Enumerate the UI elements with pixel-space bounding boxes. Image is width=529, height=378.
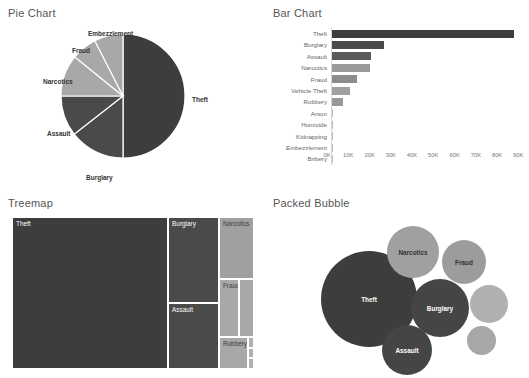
bar-fill[interactable]: [332, 52, 371, 60]
bar-fill[interactable]: [332, 30, 514, 38]
bar-chart-row[interactable]: Fraud: [273, 74, 523, 85]
bar-category-label: Narcotics: [273, 62, 331, 73]
bar-category-label: Robbery: [273, 96, 331, 107]
bar-chart-row[interactable]: Robbery: [273, 96, 523, 107]
bar-fill[interactable]: [332, 109, 333, 117]
pie-slice[interactable]: [123, 34, 185, 158]
pie-chart-canvas: TheftBurglaryAssaultNarcoticsFraudEmbezz…: [0, 0, 265, 189]
pie-slice-label: Theft: [192, 96, 208, 103]
bubble[interactable]: [470, 285, 508, 323]
pie-slice-label: Assault: [47, 130, 70, 137]
treemap-cell[interactable]: Robbery: [219, 337, 248, 369]
bar-axis-tick-label: 10K: [343, 152, 353, 158]
treemap-cell[interactable]: [248, 337, 254, 348]
bar-chart-row[interactable]: Homicide: [273, 119, 523, 130]
bar-axis-tick-label: 60K: [449, 152, 459, 158]
pie-slice-label: Embezzlement: [88, 30, 133, 37]
bar-axis-tick-label: 0K: [323, 152, 330, 158]
bubble-label: Theft: [361, 296, 377, 303]
bubble[interactable]: Narcotics: [387, 226, 439, 278]
treemap-cell-label: Assault: [172, 306, 193, 313]
bar-axis-tick-label: 90K: [513, 152, 523, 158]
bar-track: [331, 39, 523, 50]
pie-chart-svg: [0, 0, 265, 189]
treemap-cell-label: Fraud: [223, 282, 240, 289]
bar-fill[interactable]: [332, 98, 343, 106]
treemap-cell[interactable]: Fraud: [219, 279, 240, 337]
treemap-title: Treemap: [8, 197, 53, 209]
bar-track: [331, 119, 523, 130]
bar-chart-row[interactable]: Burglary: [273, 39, 523, 50]
treemap-cell[interactable]: [248, 348, 254, 357]
bar-track: [331, 28, 523, 39]
bar-category-label: Arson: [273, 108, 331, 119]
bar-axis-tick-label: 70K: [471, 152, 481, 158]
packed-bubble-panel: Packed Bubble TheftBurglaryNarcoticsAssa…: [265, 189, 529, 378]
bar-category-label: Fraud: [273, 74, 331, 85]
bar-track: [331, 108, 523, 119]
bar-fill[interactable]: [332, 87, 350, 95]
bar-axis-tick-label: 20K: [364, 152, 374, 158]
bar-category-label: Bribery: [273, 153, 331, 164]
treemap-cell-label: Theft: [16, 220, 31, 227]
bar-track: [331, 62, 523, 73]
dashboard-grid: Pie Chart TheftBurglaryAssaultNarcoticsF…: [0, 0, 529, 378]
treemap-panel: Treemap TheftBurglaryAssaultNarcoticsFra…: [0, 189, 265, 378]
bubble-label: Assault: [395, 347, 418, 354]
bar-axis-tick-label: 30K: [386, 152, 396, 158]
bar-chart-title: Bar Chart: [273, 7, 322, 19]
treemap-cell[interactable]: [239, 279, 254, 337]
treemap-cell[interactable]: [248, 358, 254, 369]
bar-axis-tick-label: 50K: [428, 152, 438, 158]
bar-fill[interactable]: [332, 121, 333, 129]
bar-category-label: Homicide: [273, 119, 331, 130]
bar-category-label: Assault: [273, 51, 331, 62]
bar-chart-x-axis: 0K10K20K30K40K50K60K70K80K90K: [327, 150, 529, 164]
bar-category-label: Kidnapping: [273, 131, 331, 142]
packed-bubble-canvas: TheftBurglaryNarcoticsAssaultFraud: [265, 207, 529, 375]
pie-slice-label: Burglary: [86, 174, 113, 181]
bubble[interactable]: [467, 326, 496, 355]
bar-category-label: Theft: [273, 28, 331, 39]
bar-category-label: Burglary: [273, 39, 331, 50]
bar-category-label: Embezzlement: [273, 142, 331, 153]
treemap-cell[interactable]: Burglary: [168, 217, 219, 303]
bubble-label: Burglary: [427, 305, 453, 312]
bar-chart-row[interactable]: Arson: [273, 108, 523, 119]
bubble[interactable]: Fraud: [442, 240, 486, 284]
pie-chart-panel: Pie Chart TheftBurglaryAssaultNarcoticsF…: [0, 0, 265, 189]
bar-track: [331, 85, 523, 96]
bar-fill[interactable]: [332, 41, 384, 49]
bar-track: [331, 131, 523, 142]
bar-axis-tick-label: 40K: [407, 152, 417, 158]
bubble-label: Fraud: [455, 259, 473, 266]
bubble-label: Narcotics: [398, 249, 427, 256]
bar-chart-row[interactable]: Kidnapping: [273, 131, 523, 142]
bar-chart-row[interactable]: Theft: [273, 28, 523, 39]
treemap-canvas: TheftBurglaryAssaultNarcoticsFraudRobber…: [12, 217, 254, 369]
pie-slice-label: Fraud: [72, 47, 90, 54]
treemap-cell-label: Burglary: [172, 220, 196, 227]
treemap-cell-label: Narcotics: [223, 220, 250, 227]
treemap-cell-label: Robbery: [223, 340, 247, 347]
bar-track: [331, 74, 523, 85]
treemap-cell[interactable]: Theft: [12, 217, 168, 369]
bar-track: [331, 51, 523, 62]
treemap-cell[interactable]: Narcotics: [219, 217, 254, 279]
bar-chart-row[interactable]: Assault: [273, 51, 523, 62]
bar-axis-tick-label: 80K: [492, 152, 502, 158]
treemap-cell[interactable]: Assault: [168, 303, 219, 369]
bar-track: [331, 96, 523, 107]
bar-category-label: Vehicle Theft: [273, 85, 331, 96]
bar-chart-panel: Bar Chart TheftBurglaryAssaultNarcoticsF…: [265, 0, 529, 189]
bar-fill[interactable]: [332, 75, 357, 83]
bar-chart-row[interactable]: Vehicle Theft: [273, 85, 523, 96]
bar-fill[interactable]: [332, 64, 370, 72]
pie-slice-label: Narcotics: [43, 78, 73, 85]
bubble[interactable]: Assault: [382, 325, 432, 375]
bar-chart-row[interactable]: Narcotics: [273, 62, 523, 73]
